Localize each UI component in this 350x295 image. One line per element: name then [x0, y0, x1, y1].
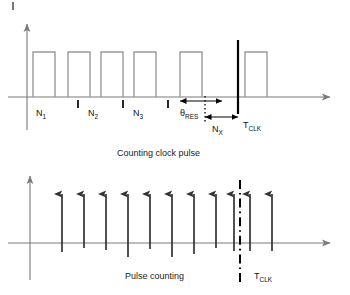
label-n3: N3: [133, 108, 143, 120]
label-n2: N2: [88, 108, 98, 120]
label-tclk-bottom: TCLK: [254, 271, 272, 283]
label-nx: NX: [212, 124, 223, 136]
label-tclk-top: TCLK: [243, 120, 261, 132]
caption-counting-clock-pulse: Counting clock pulse: [117, 148, 200, 158]
label-theta-res: θRES: [180, 108, 198, 120]
label-n1: N1: [36, 108, 46, 120]
caption-pulse-counting: Pulse counting: [125, 271, 184, 281]
